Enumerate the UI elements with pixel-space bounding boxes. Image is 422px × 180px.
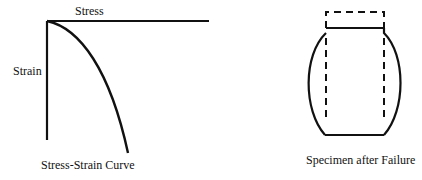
strain-axis-label: Strain <box>13 64 42 78</box>
stress-strain-curve <box>47 21 128 153</box>
specimen-right-bulge <box>384 28 401 135</box>
original-specimen-top-outline <box>326 12 384 28</box>
specimen-caption: Specimen after Failure <box>306 153 415 167</box>
diagram-canvas: Stress Strain Stress-Strain Curve Specim… <box>0 0 422 180</box>
stress-axis-label: Stress <box>75 4 104 18</box>
specimen-figure: Specimen after Failure <box>306 12 415 167</box>
stress-strain-caption: Stress-Strain Curve <box>41 158 135 172</box>
stress-strain-figure: Stress Strain Stress-Strain Curve <box>13 4 209 172</box>
specimen-left-bulge <box>309 33 326 135</box>
